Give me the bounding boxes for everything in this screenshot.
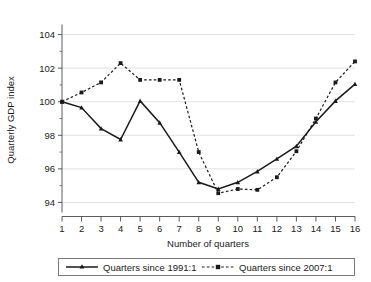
legend-label-1991: Quarters since 1991:1 [103, 262, 196, 273]
data-point-marker [236, 187, 240, 191]
x-tick-label: 3 [98, 223, 103, 234]
data-point-marker [177, 78, 181, 82]
x-tick-label: 13 [291, 223, 302, 234]
data-point-marker [99, 81, 103, 85]
data-point-marker [334, 81, 338, 85]
x-tick-label: 2 [79, 223, 84, 234]
chart-legend: Quarters since 1991:1 Quarters since 200… [59, 259, 355, 276]
y-tick-label: 96 [44, 163, 55, 174]
x-tick-label: 1 [59, 223, 64, 234]
legend-marker-square-2007 [216, 265, 220, 269]
data-point-marker [119, 61, 123, 65]
y-tick-label: 104 [39, 29, 55, 40]
data-point-marker [60, 100, 64, 104]
series-line-quarters-since-1991 [62, 84, 355, 189]
x-tick-label: 5 [137, 223, 142, 234]
data-point-marker [138, 98, 143, 102]
y-axis-title: Quarterly GDP index [5, 76, 16, 164]
x-tick-label: 6 [157, 223, 162, 234]
x-tick-label: 12 [272, 223, 283, 234]
x-tick-label: 10 [233, 223, 244, 234]
data-point-marker [353, 60, 357, 64]
data-point-marker [216, 191, 220, 195]
y-axis-tick-labels-group: 949698100102104 [39, 29, 55, 208]
data-point-marker [353, 82, 358, 86]
data-point-marker [158, 78, 162, 82]
x-tick-label: 9 [216, 223, 221, 234]
series-markers-quarters-since-1991 [60, 82, 358, 191]
x-tick-label: 7 [177, 223, 182, 234]
data-point-marker [255, 188, 259, 192]
y-tick-label: 94 [44, 197, 55, 208]
data-point-marker [314, 117, 318, 121]
x-axis-ticks-group [62, 217, 355, 222]
x-tick-label: 16 [350, 223, 361, 234]
x-tick-label: 4 [118, 223, 123, 234]
x-tick-label: 14 [311, 223, 322, 234]
x-axis-title: Number of quarters [167, 238, 249, 249]
gdp-index-line-chart: 949698100102104 12345678910111213141516 … [0, 0, 371, 282]
data-point-marker [80, 91, 84, 95]
series-line-quarters-since-2007 [62, 61, 355, 193]
y-tick-label: 98 [44, 130, 55, 141]
gridlines-group [62, 35, 355, 203]
chart-figure: 949698100102104 12345678910111213141516 … [0, 0, 371, 282]
x-axis-tick-labels-group: 12345678910111213141516 [59, 223, 360, 234]
y-tick-label: 100 [39, 96, 55, 107]
x-tick-label: 15 [330, 223, 341, 234]
data-point-marker [275, 175, 279, 179]
y-tick-label: 102 [39, 63, 55, 74]
data-point-marker [295, 149, 299, 153]
data-point-marker [197, 150, 201, 154]
data-point-marker [138, 78, 142, 82]
y-axis-ticks-group [58, 35, 62, 203]
legend-label-2007: Quarters since 2007:1 [239, 262, 332, 273]
x-tick-label: 11 [252, 223, 262, 234]
x-tick-label: 8 [196, 223, 201, 234]
